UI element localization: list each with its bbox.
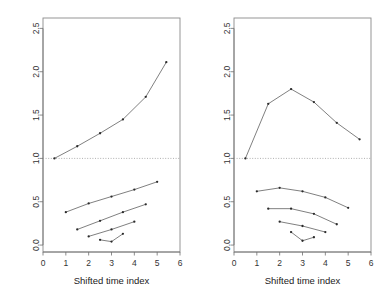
data-point: [88, 235, 90, 237]
series-line: [100, 234, 123, 242]
x-axis-title: Shifted time index: [265, 275, 341, 286]
figure-container: 0.00.51.01.52.02.50123456Shifted time in…: [0, 0, 382, 297]
x-tick-label: 1: [254, 258, 259, 268]
data-point: [290, 88, 292, 90]
data-point: [267, 103, 269, 105]
y-tick-label: 2.5: [31, 22, 41, 34]
series-line: [54, 62, 166, 158]
data-point: [313, 101, 315, 103]
y-tick-label: 2.0: [222, 66, 232, 78]
x-tick-label: 3: [109, 258, 114, 268]
data-point: [122, 118, 124, 120]
data-point: [313, 213, 315, 215]
y-tick-label: 2.0: [31, 66, 41, 78]
data-point: [279, 187, 281, 189]
y-axis: 0.00.51.01.52.02.5: [31, 22, 43, 251]
data-point: [122, 211, 124, 213]
data-point: [336, 223, 338, 225]
data-point: [133, 221, 135, 223]
series-lower-segment-2: [267, 208, 338, 226]
x-tick-label: 5: [155, 258, 160, 268]
data-point: [301, 240, 303, 242]
data-point: [145, 203, 147, 205]
series-lower-segment-4: [290, 231, 315, 242]
data-point: [301, 190, 303, 192]
data-point: [65, 211, 67, 213]
data-point: [110, 195, 112, 197]
x-tick-label: 3: [300, 258, 305, 268]
data-point: [156, 181, 158, 183]
x-tick-label: 1: [63, 258, 68, 268]
chart-panel-right: 0.00.51.01.52.02.50123456Shifted time in…: [191, 0, 382, 297]
data-point: [313, 236, 315, 238]
y-tick-label: 2.5: [222, 22, 232, 34]
series-line: [268, 209, 337, 225]
data-point: [290, 208, 292, 210]
x-tick-label: 0: [41, 258, 46, 268]
x-axis-title: Shifted time index: [74, 275, 150, 286]
data-point: [53, 157, 55, 159]
data-point: [324, 231, 326, 233]
series-lower-segment-1: [256, 187, 350, 209]
data-point: [99, 220, 101, 222]
data-point: [290, 231, 292, 233]
y-tick-label: 1.0: [31, 152, 41, 164]
data-point: [301, 225, 303, 227]
x-axis: 0123456: [41, 252, 183, 268]
y-tick-label: 1.5: [31, 109, 41, 121]
chart-panel-left: 0.00.51.01.52.02.50123456Shifted time in…: [0, 0, 191, 297]
data-point: [358, 138, 360, 140]
y-tick-label: 0.0: [31, 239, 41, 251]
y-tick-label: 1.5: [222, 109, 232, 121]
series-line: [245, 89, 359, 158]
series-upper-curve: [53, 61, 167, 160]
data-point: [347, 207, 349, 209]
x-tick-label: 6: [369, 258, 374, 268]
x-tick-label: 4: [132, 258, 137, 268]
x-tick-label: 4: [323, 258, 328, 268]
series-lower-segment-2: [76, 203, 147, 230]
x-tick-label: 6: [178, 258, 183, 268]
data-point: [88, 202, 90, 204]
x-tick-label: 2: [277, 258, 282, 268]
data-point: [244, 157, 246, 159]
data-point: [99, 132, 101, 134]
data-point: [76, 145, 78, 147]
data-point: [122, 233, 124, 235]
data-point: [145, 96, 147, 98]
data-point: [267, 208, 269, 210]
data-point: [324, 196, 326, 198]
x-tick-label: 2: [86, 258, 91, 268]
series-lower-segment-4: [99, 233, 124, 243]
data-point: [110, 240, 112, 242]
series-upper-curve: [244, 88, 360, 160]
series-lower-segment-1: [65, 181, 159, 214]
y-tick-label: 1.0: [222, 152, 232, 164]
data-point: [336, 122, 338, 124]
data-point: [99, 239, 101, 241]
data-point: [110, 228, 112, 230]
y-tick-label: 0.0: [222, 239, 232, 251]
y-tick-label: 0.5: [222, 196, 232, 208]
data-point: [133, 188, 135, 190]
plot-frame: [43, 18, 180, 252]
x-axis: 0123456: [232, 252, 374, 268]
data-point: [256, 190, 258, 192]
x-tick-label: 0: [232, 258, 237, 268]
series-lower-segment-3: [279, 221, 327, 234]
x-tick-label: 5: [346, 258, 351, 268]
plot-frame: [234, 18, 371, 252]
y-axis: 0.00.51.01.52.02.5: [222, 22, 234, 251]
data-point: [165, 61, 167, 63]
data-point: [279, 221, 281, 223]
data-point: [76, 228, 78, 230]
series-line: [77, 204, 146, 229]
y-tick-label: 0.5: [31, 196, 41, 208]
series-line: [291, 232, 314, 241]
